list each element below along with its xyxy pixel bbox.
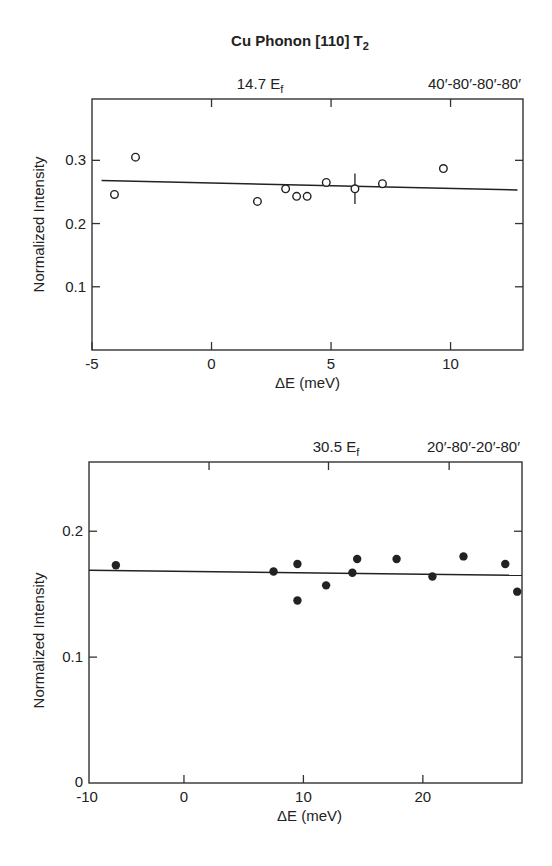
x-tick-label: 5	[327, 355, 335, 372]
x-tick-label: -5	[85, 355, 98, 372]
data-point	[392, 555, 400, 563]
x-tick-label: 10	[295, 788, 312, 805]
data-point	[513, 587, 521, 595]
y-tick-label: 0.1	[62, 648, 83, 665]
collimation-annotation: 40′-80′-80′-80′	[428, 75, 521, 92]
x-tick-label: 10	[442, 355, 459, 372]
data-point	[322, 179, 330, 187]
y-tick-label: 0.3	[65, 151, 86, 168]
data-point	[322, 581, 330, 589]
data-point	[254, 198, 262, 206]
x-tick-label: 0	[207, 355, 215, 372]
collimation-annotation: 20′-80′-20′-80′	[427, 438, 520, 455]
y-axis-label: Normalized Intensity	[30, 572, 47, 708]
figure-title: Cu Phonon [110] T2	[231, 32, 369, 52]
data-point	[501, 560, 509, 568]
plot-frame	[89, 462, 522, 783]
data-point	[132, 153, 140, 161]
data-point	[293, 560, 301, 568]
data-point	[353, 555, 361, 563]
y-tick-label: 0.1	[65, 278, 86, 295]
x-axis-label: ΔE (meV)	[275, 374, 340, 391]
y-tick-label: 0.2	[65, 215, 86, 232]
x-tick-label: 0	[180, 788, 188, 805]
x-tick-label: -10	[76, 788, 98, 805]
chart-bottom-panel: 30.5 Ef20′-80′-20′-80′01020-1000.10.2ΔE …	[30, 438, 522, 824]
energy-annotation: 30.5 Ef	[313, 438, 360, 458]
y-tick-label: 0	[75, 773, 83, 790]
x-tick-label: 20	[415, 788, 432, 805]
data-point	[440, 165, 448, 173]
data-point	[428, 572, 436, 580]
data-point	[293, 193, 301, 201]
data-point	[112, 561, 120, 569]
data-point	[111, 191, 119, 199]
data-point	[379, 180, 387, 188]
fit-line	[89, 570, 522, 575]
y-tick-label: 0.2	[62, 522, 83, 539]
energy-annotation: 14.7 Ef	[237, 75, 284, 95]
figure: Cu Phonon [110] T2 14.7 Ef40′-80′-80′-80…	[0, 0, 552, 866]
chart-top-panel: 14.7 Ef40′-80′-80′-80′-505100.10.20.3ΔE …	[30, 75, 523, 391]
y-axis-label: Normalized Intensity	[30, 156, 47, 292]
x-axis-label: ΔE (meV)	[277, 807, 342, 824]
data-point	[459, 552, 467, 560]
plot-frame	[92, 99, 523, 350]
fit-line	[102, 181, 518, 190]
data-point	[269, 567, 277, 575]
data-point	[282, 185, 290, 193]
data-point	[303, 193, 311, 201]
data-point	[351, 185, 359, 193]
data-point	[293, 596, 301, 604]
data-point	[348, 569, 356, 577]
